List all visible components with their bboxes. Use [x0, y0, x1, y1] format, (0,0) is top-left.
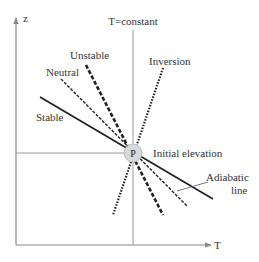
neutral-line	[61, 79, 187, 206]
initial-elevation-label: Initial elevation	[153, 147, 223, 159]
point-p-label: P	[130, 148, 136, 159]
stable-label: Stable	[36, 111, 64, 123]
stability-diagram: z T T=constant Stable Neutral Unstable I…	[0, 0, 259, 262]
adiabatic-label-line2: line	[231, 184, 248, 196]
neutral-label: Neutral	[46, 66, 79, 78]
z-axis-label: z	[23, 12, 28, 24]
isotherm-label: T=constant	[108, 15, 158, 27]
inversion-line	[113, 68, 163, 215]
unstable-line	[86, 65, 163, 215]
inversion-label: Inversion	[149, 55, 191, 67]
adiabatic-label-line1: Adiabatic	[206, 171, 249, 183]
adiabatic-leader	[177, 182, 208, 191]
t-axis-label: T	[214, 239, 221, 251]
unstable-label: Unstable	[70, 49, 109, 61]
